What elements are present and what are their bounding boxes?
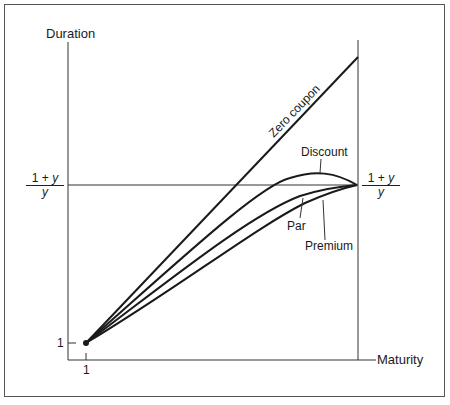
premium-leader bbox=[323, 200, 325, 240]
zero-coupon-curve bbox=[86, 57, 358, 343]
fraction-denominator: y bbox=[26, 186, 64, 199]
y-tick-label: 1 bbox=[57, 336, 64, 350]
asymptote-label-right: 1 + y y bbox=[362, 172, 400, 199]
y-axis-label: Duration bbox=[46, 27, 95, 41]
x-axis-label: Maturity bbox=[377, 353, 423, 367]
fraction-denominator: y bbox=[362, 186, 400, 199]
premium-label: Premium bbox=[305, 239, 353, 253]
duration-maturity-diagram bbox=[0, 0, 450, 405]
asymptote-label-left: 1 + y y bbox=[26, 172, 64, 199]
discount-leader bbox=[320, 159, 321, 173]
fraction-numerator: 1 + y bbox=[26, 172, 64, 186]
fraction-numerator: 1 + y bbox=[362, 172, 400, 186]
x-tick-label: 1 bbox=[83, 363, 90, 377]
par-curve bbox=[86, 185, 357, 343]
premium-curve bbox=[86, 185, 357, 343]
par-leader bbox=[300, 198, 303, 218]
origin-point bbox=[83, 340, 89, 346]
par-label: Par bbox=[287, 219, 306, 233]
discount-label: Discount bbox=[301, 145, 348, 159]
